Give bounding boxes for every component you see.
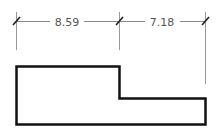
dimension-label-2: 7.18: [150, 16, 175, 29]
stepped-profile-outline: [17, 67, 206, 125]
dimensioned-drawing: 8.59 7.18: [0, 0, 217, 128]
dimension-label-1: 8.59: [55, 16, 80, 29]
